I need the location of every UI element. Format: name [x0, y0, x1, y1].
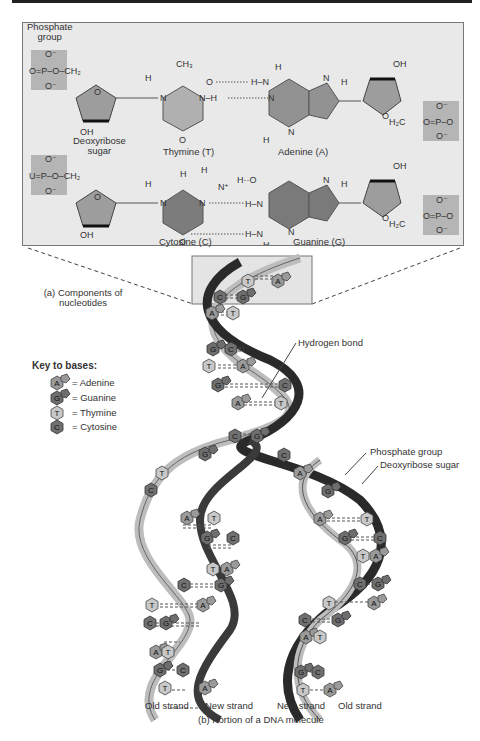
- svg-text:T: T: [318, 633, 323, 642]
- strand-label-old-right: Old strand: [338, 701, 382, 711]
- svg-text:G: G: [215, 381, 221, 390]
- svg-text:T: T: [279, 399, 284, 408]
- phosphate-group-callout: Phosphate group: [370, 447, 442, 457]
- strand-label-old-left: Old strand: [145, 701, 189, 711]
- svg-text:T: T: [365, 515, 370, 524]
- svg-text:G: G: [218, 581, 224, 590]
- strand-label-new-left: New strand: [205, 701, 253, 711]
- svg-text:T: T: [166, 648, 171, 657]
- svg-text:G: G: [342, 534, 348, 543]
- svg-text:G: G: [375, 580, 381, 589]
- svg-text:G: G: [335, 616, 341, 625]
- svg-text:C: C: [230, 534, 236, 543]
- svg-text:A: A: [371, 599, 377, 608]
- svg-text:C: C: [302, 616, 308, 625]
- svg-text:A: A: [153, 648, 159, 657]
- svg-text:C: C: [377, 534, 383, 543]
- svg-text:C: C: [148, 486, 154, 495]
- svg-text:C: C: [181, 581, 187, 590]
- svg-text:G: G: [54, 394, 60, 403]
- svg-text:C: C: [180, 666, 186, 675]
- strand-label-new-right: New strand: [277, 701, 325, 711]
- svg-text:T: T: [163, 684, 168, 693]
- svg-text:T: T: [361, 552, 366, 561]
- svg-text:C: C: [54, 423, 60, 432]
- svg-text:A: A: [327, 686, 333, 695]
- svg-text:T: T: [246, 277, 251, 286]
- svg-text:G: G: [204, 534, 210, 543]
- key-glyphs: A G T C: [51, 374, 70, 434]
- svg-text:C: C: [281, 451, 287, 460]
- svg-text:C: C: [232, 432, 238, 441]
- svg-text:T: T: [301, 686, 306, 695]
- svg-text:G: G: [254, 432, 260, 441]
- svg-text:A: A: [200, 601, 206, 610]
- svg-text:T: T: [150, 601, 155, 610]
- svg-text:G: G: [325, 487, 331, 496]
- svg-text:T: T: [231, 309, 236, 318]
- svg-text:C: C: [315, 668, 321, 677]
- svg-text:T: T: [211, 565, 216, 574]
- svg-text:C: C: [357, 580, 363, 589]
- svg-text:A: A: [202, 684, 208, 693]
- svg-text:A: A: [235, 399, 241, 408]
- svg-text:A: A: [303, 633, 309, 642]
- svg-text:C: C: [147, 619, 153, 628]
- panel-a-caption: (a) Components of nucleotides: [38, 288, 128, 309]
- svg-text:T: T: [207, 362, 212, 371]
- key-title: Key to bases:: [32, 360, 97, 371]
- svg-text:A: A: [275, 277, 281, 286]
- svg-text:C: C: [228, 345, 234, 354]
- svg-text:T: T: [212, 514, 217, 523]
- key-item-adenine: = Adenine: [72, 378, 115, 388]
- svg-text:T: T: [160, 469, 165, 478]
- svg-text:A: A: [240, 362, 246, 371]
- svg-text:A: A: [184, 514, 190, 523]
- svg-text:A: A: [297, 469, 303, 478]
- svg-text:C: C: [282, 381, 288, 390]
- svg-text:G: G: [163, 619, 169, 628]
- svg-text:C: C: [217, 293, 223, 302]
- svg-text:G: G: [157, 666, 163, 675]
- svg-text:T: T: [55, 409, 60, 418]
- key-item-cytosine: = Cytosine: [72, 422, 117, 432]
- svg-text:G: G: [298, 668, 304, 677]
- svg-text:G: G: [240, 293, 246, 302]
- hydrogen-bond-label: Hydrogen bond: [298, 338, 363, 348]
- svg-text:A: A: [209, 309, 215, 318]
- svg-text:T: T: [327, 599, 332, 608]
- panel-b-caption: (b) Portion of a DNA molecule: [198, 715, 324, 725]
- svg-text:G: G: [202, 450, 208, 459]
- key-item-thymine: = Thymine: [72, 408, 116, 418]
- svg-text:A: A: [54, 379, 60, 388]
- svg-text:A: A: [317, 515, 323, 524]
- svg-text:A: A: [373, 552, 379, 561]
- deoxyribose-sugar-callout: Deoxyribose sugar: [380, 460, 459, 470]
- key-item-guanine: = Guanine: [72, 393, 116, 403]
- svg-text:A: A: [224, 565, 230, 574]
- svg-text:G: G: [210, 345, 216, 354]
